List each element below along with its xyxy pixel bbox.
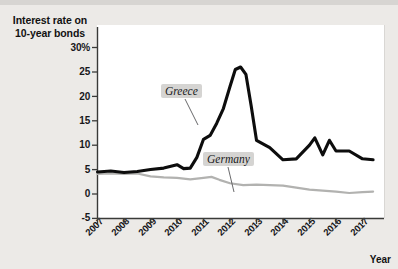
x-axis-ticks xyxy=(98,219,363,225)
series-group xyxy=(98,67,374,193)
leader-line-greece xyxy=(185,99,198,125)
chart-svg xyxy=(0,0,398,269)
axis-group xyxy=(92,27,384,224)
leader-line-germany xyxy=(228,167,234,192)
series-line-greece xyxy=(98,67,374,172)
y-axis-ticks xyxy=(92,48,98,219)
series-line-germany xyxy=(98,173,374,193)
chart-figure: Interest rate on 10-year bonds 30% 25 20… xyxy=(0,0,398,269)
